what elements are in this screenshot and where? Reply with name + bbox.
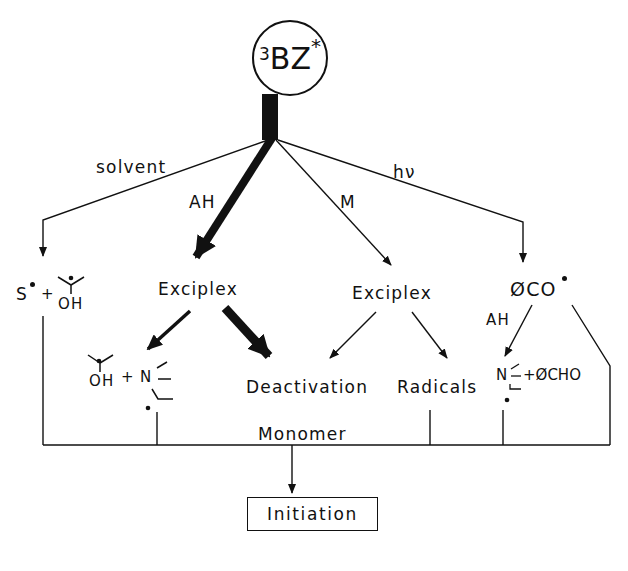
plus-sign-2: + <box>121 370 135 385</box>
amine-n-2: N <box>496 368 508 383</box>
exciplex-to-deactivation <box>225 308 269 356</box>
exciplex-right: Exciplex <box>352 285 432 302</box>
branch-label-m: M <box>340 194 356 211</box>
triplet-superscript: 3 <box>259 44 270 64</box>
ketyl-oh-label-2: OH <box>89 374 115 389</box>
branch-label-solvent: solvent <box>96 159 166 176</box>
solvent-radical: S <box>16 286 28 303</box>
root-label: BZ <box>270 41 311 76</box>
excited-star: * <box>311 34 321 58</box>
benzaldehyde: +ØCHO <box>523 368 581 383</box>
exciplex-r-to-radicals <box>412 312 447 358</box>
exciplex-to-ketyl <box>148 311 190 349</box>
triplet-benzophenone-node: 3BZ* <box>252 20 328 96</box>
plus-sign: + <box>41 287 55 302</box>
stem <box>262 94 278 140</box>
exciplex-r-to-deactivation <box>330 312 376 358</box>
ketyl-oh-label: OH <box>58 297 84 312</box>
ketyl-glyph-2 <box>88 355 113 372</box>
initiation-label: Initiation <box>267 504 358 524</box>
monomer-label: Monomer <box>258 426 347 443</box>
branch-label-ah: AH <box>189 194 216 211</box>
amine-glyph-1 <box>152 362 173 399</box>
radical-dot <box>30 282 35 287</box>
initiation-box: Initiation <box>247 497 378 531</box>
branch-label-hv: hν <box>393 164 416 181</box>
benzoyl-ah-label: AH <box>486 313 510 328</box>
amine-n-1: N <box>140 370 152 385</box>
deactivation: Deactivation <box>246 379 368 396</box>
benzoyl-radical: ØCO <box>510 280 557 299</box>
amine-glyph-2 <box>510 364 521 389</box>
benzoyl-dot <box>562 276 567 281</box>
exciplex-left: Exciplex <box>158 281 238 298</box>
radicals: Radicals <box>397 379 477 396</box>
hv-line <box>278 140 523 262</box>
